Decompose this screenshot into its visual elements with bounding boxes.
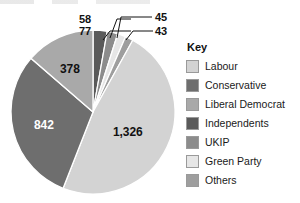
legend-swatch-icon: [186, 60, 199, 73]
legend-swatch-icon: [186, 155, 199, 168]
legend-item-ukip[interactable]: UKIP: [186, 133, 300, 152]
legend-item-label: Independents: [205, 118, 269, 129]
legend-item-labour[interactable]: Labour: [186, 57, 300, 76]
slice-value-842: 842: [34, 119, 54, 131]
legend-swatch-icon: [186, 117, 199, 130]
legend-item-conservative[interactable]: Conservative: [186, 76, 300, 95]
legend-item-label: UKIP: [205, 137, 230, 148]
legend-item-label: Liberal Democrat: [205, 99, 285, 110]
legend-swatch-icon: [186, 98, 199, 111]
legend-item-label: Green Party: [205, 156, 262, 167]
slice-value-1326: 1,326: [113, 126, 143, 138]
legend-item-label: Labour: [205, 61, 238, 72]
legend-item-label: Conservative: [205, 80, 266, 91]
slice-value-43: 43: [155, 26, 167, 37]
legend-item-others[interactable]: Others: [186, 171, 300, 190]
pie-chart-figure: 58 77 45 43 378 842 1,326 Key LabourCons…: [0, 0, 300, 203]
legend-item-green-party[interactable]: Green Party: [186, 152, 300, 171]
slice-value-77: 77: [79, 26, 91, 37]
legend-swatch-icon: [186, 136, 199, 149]
legend-swatch-icon: [186, 79, 199, 92]
slice-value-58: 58: [79, 14, 91, 25]
slice-value-45: 45: [155, 12, 167, 23]
legend-item-label: Others: [205, 175, 237, 186]
pie-slices: [11, 30, 175, 194]
pie-chart-area: 58 77 45 43 378 842 1,326: [0, 0, 186, 203]
legend-item-independents[interactable]: Independents: [186, 114, 300, 133]
callout-leader-lines: [103, 17, 153, 40]
legend-swatch-icon: [186, 174, 199, 187]
legend-title: Key: [187, 42, 300, 53]
chart-legend: Key LabourConservativeLiberal DemocratIn…: [186, 42, 300, 190]
slice-value-378: 378: [60, 63, 80, 75]
legend-items: LabourConservativeLiberal DemocratIndepe…: [186, 57, 300, 190]
legend-item-liberal-democrat[interactable]: Liberal Democrat: [186, 95, 300, 114]
